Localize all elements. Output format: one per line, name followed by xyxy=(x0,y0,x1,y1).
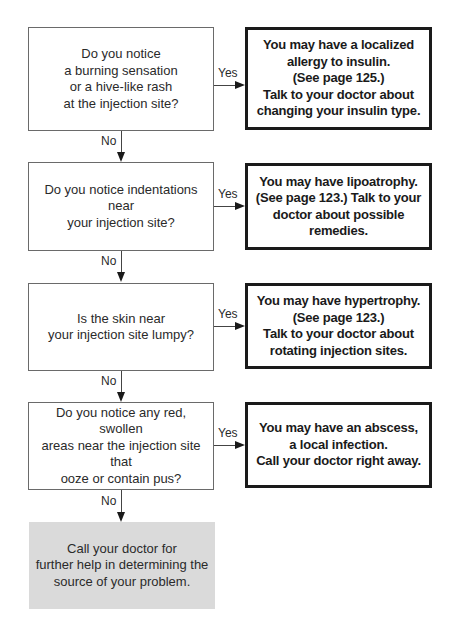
yes-connector-1 xyxy=(214,85,236,86)
no-connector-4 xyxy=(121,490,122,513)
answer-box-3: You may have hypertrophy. (See page 123.… xyxy=(245,283,432,369)
answer-box-2: You may have lipoatrophy. (See page 123.… xyxy=(245,163,432,250)
answer-box-1: You may have a localized allergy to insu… xyxy=(245,27,432,130)
arrow-down-icon xyxy=(117,392,125,402)
question-box-2: Do you notice indentations near your inj… xyxy=(28,162,214,251)
arrow-right-icon xyxy=(235,441,245,449)
no-connector-1 xyxy=(121,131,122,153)
answer-box-4: You may have an abscess, a local infecti… xyxy=(245,402,432,488)
question-box-1: Do you notice a burning sensation or a h… xyxy=(28,27,214,131)
answer-text-3: You may have hypertrophy. (See page 123.… xyxy=(257,293,421,359)
yes-connector-2 xyxy=(214,206,236,207)
yes-label-2: Yes xyxy=(218,187,238,201)
yes-connector-4 xyxy=(214,445,236,446)
no-connector-3 xyxy=(121,371,122,393)
question-text-4: Do you notice any red, swollen areas nea… xyxy=(35,405,207,488)
cutoff-heading xyxy=(0,0,457,4)
final-text: Call your doctor for further help in det… xyxy=(36,541,209,591)
no-label-3: No xyxy=(101,374,116,388)
question-text-3: Is the skin near your injection site lum… xyxy=(48,311,194,344)
answer-text-4: You may have an abscess, a local infecti… xyxy=(256,420,421,470)
arrow-right-icon xyxy=(235,202,245,210)
answer-text-2: You may have lipoatrophy. (See page 123.… xyxy=(254,174,423,240)
question-text-2: Do you notice indentations near your inj… xyxy=(35,182,207,232)
no-label-4: No xyxy=(101,494,116,508)
arrow-right-icon xyxy=(235,322,245,330)
answer-text-1: You may have a localized allergy to insu… xyxy=(257,37,421,120)
no-label-1: No xyxy=(101,134,116,148)
yes-connector-3 xyxy=(214,326,236,327)
arrow-down-icon xyxy=(117,152,125,162)
arrow-down-icon xyxy=(117,272,125,282)
question-box-4: Do you notice any red, swollen areas nea… xyxy=(28,402,214,490)
question-box-3: Is the skin near your injection site lum… xyxy=(28,283,214,371)
no-label-2: No xyxy=(101,254,116,268)
no-connector-2 xyxy=(121,251,122,273)
yes-label-4: Yes xyxy=(218,426,238,440)
yes-label-3: Yes xyxy=(218,307,238,321)
arrow-right-icon xyxy=(235,81,245,89)
arrow-down-icon xyxy=(117,512,125,522)
final-box: Call your doctor for further help in det… xyxy=(29,522,215,609)
yes-label-1: Yes xyxy=(218,66,238,80)
question-text-1: Do you notice a burning sensation or a h… xyxy=(64,46,179,112)
